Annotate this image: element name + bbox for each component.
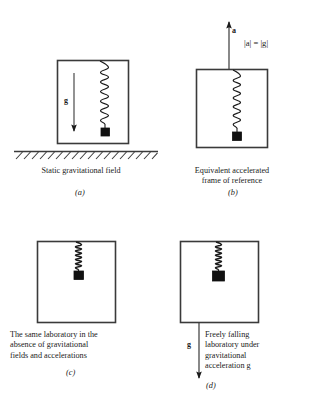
relation-a-equals-g: |a| = |g|: [244, 38, 268, 48]
mass-block-c: [74, 271, 84, 280]
caption-panel-c-line-3: fields and accelerations: [10, 351, 150, 361]
panel-id-d: (d): [206, 381, 216, 390]
caption-panel-a: Static gravitational field: [10, 166, 152, 176]
panel-id-b: (b): [228, 188, 238, 197]
relation-text: |a| = |g|: [244, 38, 268, 48]
panel-id-c: (c): [66, 368, 75, 377]
caption-panel-d-line-1: Freely falling: [205, 330, 311, 340]
caption-panel-b-line-1: Equivalent accelerated: [166, 166, 298, 176]
panel-c: [38, 242, 116, 323]
caption-panel-d-line-4: acceleration g: [205, 361, 311, 371]
caption-panel-c: The same laboratory in the absence of gr…: [10, 330, 150, 361]
laboratory-box-b: [197, 70, 268, 148]
label-a-panel-b: a: [232, 26, 236, 35]
panel-a: [14, 61, 158, 160]
mass-block-d: [213, 271, 225, 281]
mass-block-a: [101, 128, 110, 136]
caption-panel-b: Equivalent accelerated frame of referenc…: [166, 166, 298, 187]
caption-panel-b-line-2: frame of reference: [166, 176, 298, 186]
laboratory-box-c: [38, 242, 116, 323]
panel-id-a: (a): [75, 188, 85, 197]
label-g-panel-d: g: [187, 340, 191, 349]
laboratory-box-a: [58, 61, 129, 144]
caption-panel-d-line-3: gravitational: [205, 351, 311, 361]
caption-panel-a-line-1: Static gravitational field: [10, 166, 152, 176]
caption-panel-c-line-1: The same laboratory in the: [10, 330, 150, 340]
caption-panel-d: Freely falling laboratory under gravitat…: [205, 330, 311, 372]
mass-block-b: [233, 132, 242, 141]
ground-a: [14, 152, 158, 160]
caption-panel-c-line-2: absence of gravitational: [10, 340, 150, 350]
label-g-panel-a: g: [64, 96, 68, 105]
caption-panel-d-line-2: laboratory under: [205, 340, 311, 350]
